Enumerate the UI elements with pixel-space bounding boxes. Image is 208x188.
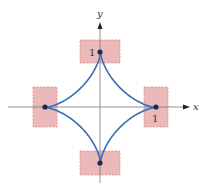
cusp-dot-left <box>42 104 47 109</box>
x-axis-arrow-icon <box>183 105 190 110</box>
y-tick-one-label: 1 <box>89 47 95 58</box>
y-axis-label: y <box>96 8 103 19</box>
astroid-curve <box>45 52 156 163</box>
x-tick-one-label: 1 <box>152 113 158 124</box>
y-axis-arrow-icon <box>98 22 103 29</box>
cusp-dot-bottom <box>97 160 102 165</box>
cusp-dot-top <box>97 49 102 54</box>
cusp-dot-right <box>153 104 158 109</box>
astroid-diagram: y x 1 1 <box>0 0 208 188</box>
x-axis-label: x <box>193 101 199 112</box>
